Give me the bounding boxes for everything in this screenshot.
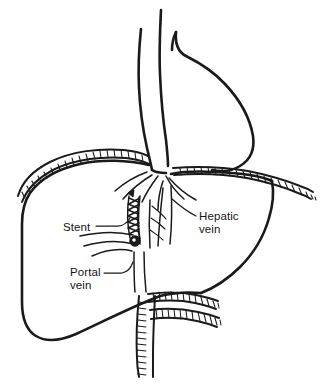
label-hepatic-vein-line1: Hepatic — [199, 210, 239, 222]
label-portal-vein-line1: Portal — [70, 266, 101, 278]
liver-tips-diagram: Stent Hepatic vein Portal vein — [0, 0, 325, 384]
label-stent: Stent — [63, 221, 91, 233]
label-portal-vein-line2: vein — [70, 279, 92, 291]
stent-lumen — [132, 238, 136, 242]
label-hepatic-vein-line2: vein — [199, 223, 221, 235]
figure-container: Stent Hepatic vein Portal vein — [0, 0, 325, 384]
